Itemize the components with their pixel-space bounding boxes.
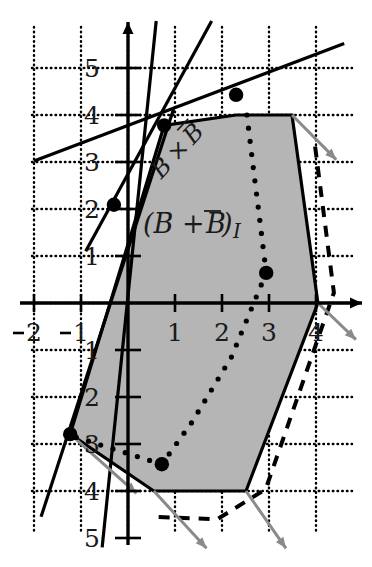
dotted-curve-dot	[234, 342, 239, 347]
dotted-curve-dot	[244, 112, 249, 117]
dotted-curve-dot	[251, 165, 256, 170]
dotted-curve-dot	[174, 441, 179, 446]
lattice-point-dot	[107, 198, 121, 212]
y-tick-label: 2	[84, 195, 100, 224]
region-label-close: )	[221, 208, 233, 239]
math-diagram-svg: 5432112345211234 (B + B ) I B × B	[0, 0, 372, 567]
dotted-curve-dot	[259, 282, 264, 287]
dotted-curve-dot	[256, 205, 261, 210]
dotted-curve-dot	[189, 420, 194, 425]
dotted-curve-dot	[216, 376, 221, 381]
y-tick-label: 2	[84, 383, 100, 412]
dotted-curve-dot	[202, 398, 207, 403]
dotted-curve-dot	[229, 355, 234, 360]
dotted-curve-dot	[248, 139, 253, 144]
y-tick-label: 3	[84, 430, 100, 459]
dotted-curve-dot	[147, 458, 152, 463]
region-label-open: (B +	[143, 208, 205, 239]
dotted-curve-dot	[246, 126, 251, 131]
dotted-curve-dot	[135, 454, 140, 459]
x-tick-label: 1	[167, 318, 183, 347]
x-tick-label: 4	[308, 318, 324, 347]
y-tick-label: 4	[84, 101, 100, 130]
figure-canvas: 5432112345211234 (B + B ) I B × B	[0, 0, 372, 567]
dotted-curve-dot	[239, 330, 244, 335]
y-tick-label: 5	[84, 524, 100, 553]
dotted-curve-dot	[196, 409, 201, 414]
dotted-curve-dot	[257, 218, 262, 223]
lattice-point-dot	[157, 118, 171, 132]
dotted-curve-dot	[209, 387, 214, 392]
x-tick-label: 2	[214, 318, 230, 347]
dotted-curve-dot	[259, 231, 264, 236]
dotted-curve-dot	[254, 191, 259, 196]
dotted-curve-dot	[249, 306, 254, 311]
dotted-curve-dot	[181, 431, 186, 436]
dotted-curve-dot	[244, 318, 249, 323]
dotted-curve-dot	[249, 152, 254, 157]
region-label-subscript: I	[232, 219, 242, 243]
y-tick-label: 5	[84, 54, 100, 83]
x-tick-label: 1	[73, 318, 89, 347]
lattice-point-dot	[63, 427, 77, 441]
dotted-curve-dot	[262, 257, 267, 262]
x-tick-label: 2	[26, 318, 42, 347]
dotted-curve-dot	[252, 178, 257, 183]
y-tick-label: 3	[84, 148, 100, 177]
x-tick-label: 3	[261, 318, 277, 347]
dotted-curve-dot	[123, 450, 128, 455]
dotted-curve-dot	[260, 244, 265, 249]
lattice-point-dot	[229, 88, 243, 102]
dotted-curve-dot	[110, 446, 115, 451]
dotted-curve-dot	[254, 294, 259, 299]
lattice-point-dot	[259, 266, 273, 280]
y-tick-label: 4	[84, 477, 100, 506]
region-label-group: (B + B ) I	[143, 208, 242, 243]
dotted-curve-dot	[222, 365, 227, 370]
lattice-point-dot	[155, 457, 169, 471]
dotted-curve-dot	[167, 451, 172, 456]
y-tick-label: 1	[84, 242, 100, 271]
